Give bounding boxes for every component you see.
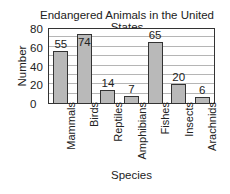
y-axis-label: Number xyxy=(16,46,28,87)
y-tick-label: 20 xyxy=(30,79,43,91)
bar-value-label: 20 xyxy=(172,71,185,83)
bar-fishes xyxy=(148,42,163,103)
y-tick-label: 80 xyxy=(30,23,43,35)
y-tick-label: 60 xyxy=(30,42,43,54)
x-axis-label: Species xyxy=(48,169,215,181)
gridline xyxy=(49,46,214,47)
gridline xyxy=(49,74,214,75)
gridline xyxy=(49,36,214,37)
bar-mammals xyxy=(53,51,68,103)
x-tick-label: Reptiles xyxy=(112,102,124,142)
x-tick-label: Amphibians xyxy=(136,102,148,159)
bar-value-label: 65 xyxy=(149,29,162,41)
gridline xyxy=(49,55,214,56)
bar-value-label: 7 xyxy=(128,83,134,95)
x-tick-label: Fishes xyxy=(159,102,171,134)
y-tick-label: 40 xyxy=(30,61,43,73)
gridline xyxy=(49,65,214,66)
bar-value-label: 74 xyxy=(78,36,91,48)
y-tick-label: 0 xyxy=(30,98,36,110)
bar-value-label: 14 xyxy=(102,77,115,89)
bar-value-label: 55 xyxy=(54,38,67,50)
x-tick-label: Mammals xyxy=(64,102,76,150)
bar-insects xyxy=(171,84,186,103)
x-tick-label: Insects xyxy=(183,102,195,137)
x-tick-label: Birds xyxy=(88,102,100,127)
x-tick-label: Arachnids xyxy=(206,102,218,151)
bar-value-label: 6 xyxy=(199,84,205,96)
